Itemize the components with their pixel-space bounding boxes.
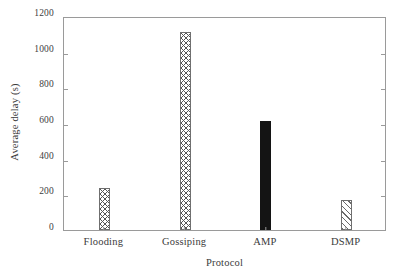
y-axis-tick-mark-right <box>381 125 385 126</box>
x-axis-tick-label: Gossiping <box>162 237 206 248</box>
y-axis-tick-mark <box>64 54 68 55</box>
x-axis-tick-label: Flooding <box>84 237 124 248</box>
y-axis-tick-label: 1200 <box>34 9 54 19</box>
bar-flooding <box>99 188 110 230</box>
x-axis-tick: Flooding <box>84 231 124 248</box>
y-axis-tick-label: 0 <box>49 223 54 233</box>
x-axis-tick-label: DSMP <box>331 237 360 248</box>
y-axis-tick-label: 1000 <box>34 45 54 55</box>
y-axis-tick-label: 800 <box>39 80 54 90</box>
y-axis-tick-mark-right <box>381 161 385 162</box>
x-axis-tick-mark <box>265 227 266 231</box>
x-axis-tick-mark <box>184 227 185 231</box>
x-axis-tick-mark <box>346 227 347 231</box>
y-axis-tick-mark <box>64 196 68 197</box>
x-axis-tick-mark <box>103 227 104 231</box>
plot-area <box>63 17 386 231</box>
y-axis-tick-mark-right <box>381 196 385 197</box>
y-axis: 020040060080010001200 <box>0 17 63 231</box>
y-axis-tick-mark-right <box>381 54 385 55</box>
x-axis-tick: AMP <box>253 231 276 248</box>
x-axis: FloodingGossipingAMPDSMP <box>63 231 386 255</box>
y-axis-tick-label: 600 <box>39 116 54 126</box>
y-axis-tick-label: 200 <box>39 187 54 197</box>
y-axis-tick-mark-right <box>381 89 385 90</box>
x-axis-tick-label: AMP <box>253 237 276 248</box>
bar-dsmp <box>341 200 352 230</box>
x-axis-title: Protocol <box>63 256 386 270</box>
y-axis-tick-label: 400 <box>39 152 54 162</box>
bar-chart-figure: Average delay (s) 020040060080010001200 … <box>0 0 407 279</box>
bar-gossiping <box>180 32 191 230</box>
x-axis-tick: DSMP <box>331 231 360 248</box>
y-axis-tick-mark <box>64 125 68 126</box>
y-axis-tick-mark <box>64 89 68 90</box>
y-axis-tick-mark <box>64 161 68 162</box>
x-axis-tick: Gossiping <box>162 231 206 248</box>
bar-amp <box>260 121 271 230</box>
